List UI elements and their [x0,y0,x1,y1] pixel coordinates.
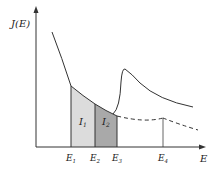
y-axis-label: J(E) [9,18,30,29]
y-axis-arrow-icon [34,6,39,13]
x-axis-arrow-icon [199,145,206,150]
tick-e1: E1 [65,153,76,164]
extrapolated-background [117,116,198,130]
spectrum-diagram: J(E) E I1 I2 E1 E2 E3 E4 [0,0,217,172]
tick-e2: E2 [89,153,101,164]
edge-peak-curve [113,69,193,114]
tick-e3: E3 [111,153,123,164]
x-axis-label: E [199,153,208,164]
tick-e4: E4 [157,153,169,164]
